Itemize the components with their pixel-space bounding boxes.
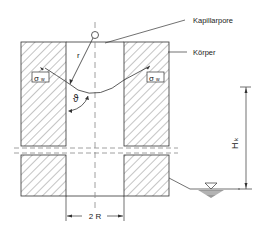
height-label-sub: k (233, 137, 239, 141)
capillary-pore-label: Kapillarpore (193, 16, 233, 25)
width-dimension: 2 R (66, 196, 124, 221)
break-lines (14, 148, 178, 153)
radius-line (70, 38, 93, 84)
angle-arrowhead-icon (85, 96, 89, 100)
height-dimension: H k (230, 87, 252, 189)
water-level (169, 178, 240, 198)
capillary-diagram: r ϑ σ w σ w Kapillarpore Körper H k (0, 0, 261, 231)
dimension-arrow-icon (245, 88, 248, 93)
right-body-block (124, 42, 169, 196)
left-body-block (21, 42, 66, 196)
radius-label: r (77, 51, 80, 60)
svg-text:σ: σ (34, 74, 39, 83)
body-label: Körper (193, 48, 216, 57)
width-label: 2 R (89, 212, 102, 221)
radius-center-icon (92, 32, 99, 39)
water-level-icon (205, 183, 217, 189)
height-label: H (230, 143, 240, 150)
dimension-arrow-icon (245, 183, 248, 188)
dimension-arrow-icon (67, 215, 72, 218)
angle-label: ϑ (73, 93, 79, 104)
svg-text:w: w (41, 76, 45, 82)
svg-text:σ: σ (149, 74, 154, 83)
angle-arrowhead-icon (68, 109, 72, 113)
svg-text:w: w (156, 76, 160, 82)
dimension-arrow-icon (118, 215, 123, 218)
capillary-pore-leader (105, 20, 185, 43)
